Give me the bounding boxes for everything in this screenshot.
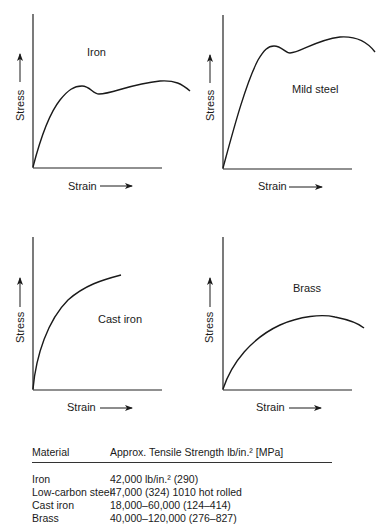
stress-strain-curve — [33, 275, 121, 389]
cell-material: Brass — [32, 512, 110, 525]
header-tensile-strength: Approx. Tensile Strength lb/in.² [MPa] — [110, 446, 283, 458]
x-axis-label: Strain — [67, 401, 96, 413]
stress-strain-curve — [33, 81, 190, 167]
x-axis-label: Strain — [256, 401, 285, 413]
plot-label: Cast iron — [98, 313, 142, 325]
header-material: Material — [32, 446, 110, 458]
plot-iron: Iron Strain Stress — [14, 14, 190, 192]
table-row: Brass 40,000–120,000 (276–827) — [32, 512, 332, 525]
plot-label: Iron — [87, 46, 106, 58]
table-header: Material Approx. Tensile Strength lb/in.… — [32, 446, 332, 463]
table-body: Iron 42,000 lb/in.² (290) Low-carbon ste… — [32, 463, 332, 525]
table-row: Cast iron 18,000–60,000 (124–414) — [32, 499, 332, 512]
plot-brass: Brass Strain Stress — [203, 237, 364, 413]
y-axis-label: Stress — [14, 311, 26, 343]
cell-material: Iron — [32, 473, 110, 486]
plot-mild-steel: Mild steel Strain Stress — [204, 15, 375, 192]
stress-strain-curve — [223, 37, 375, 168]
table-row: Low-carbon steel 47,000 (324) 1010 hot r… — [32, 486, 332, 499]
plot-cast-iron: Cast iron Strain Stress — [14, 237, 162, 413]
cell-strength: 42,000 lb/in.² (290) — [110, 473, 198, 486]
cell-strength: 18,000–60,000 (124–414) — [110, 499, 231, 512]
tensile-strength-table: Material Approx. Tensile Strength lb/in.… — [32, 446, 332, 525]
cell-strength: 40,000–120,000 (276–827) — [110, 512, 237, 525]
y-axis-label: Stress — [14, 89, 26, 121]
plot-label: Mild steel — [292, 83, 338, 95]
y-axis-label: Stress — [203, 311, 215, 343]
cell-material: Low-carbon steel — [32, 486, 110, 499]
x-axis-label: Strain — [68, 180, 97, 192]
table-row: Iron 42,000 lb/in.² (290) — [32, 473, 332, 486]
y-axis-label: Stress — [204, 89, 216, 121]
plot-label: Brass — [293, 282, 322, 294]
cell-strength: 47,000 (324) 1010 hot rolled — [110, 486, 242, 499]
cell-material: Cast iron — [32, 499, 110, 512]
x-axis-label: Strain — [258, 180, 287, 192]
stress-strain-curve — [223, 316, 364, 389]
stress-strain-diagrams: Iron Strain Stress Mild steel Strain Str… — [0, 0, 384, 440]
